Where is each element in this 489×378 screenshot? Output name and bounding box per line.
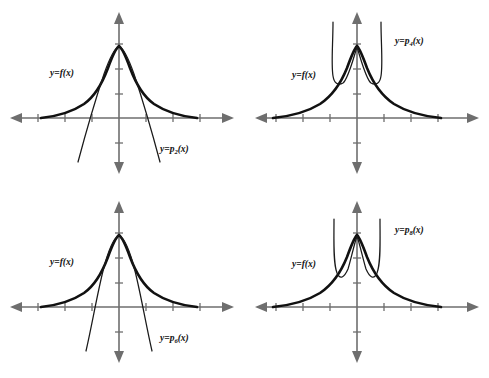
y-axis-down-arrow-icon xyxy=(114,162,124,174)
x-axis-right-arrow-icon xyxy=(222,113,234,123)
x-axis-right-arrow-icon xyxy=(467,113,479,123)
x-axis-left-arrow-icon xyxy=(255,302,267,312)
axes-group xyxy=(255,201,479,363)
axes-group xyxy=(255,12,479,174)
p-label-bottom-right: y=p8(x) xyxy=(394,225,424,236)
y-axis-up-arrow-icon xyxy=(352,201,362,213)
y-axis-up-arrow-icon xyxy=(114,12,124,24)
p-label-top-left: y=p2(x) xyxy=(159,144,189,155)
x-axis-left-arrow-icon xyxy=(10,113,22,123)
p-label-bottom-left: y=p6(x) xyxy=(159,333,189,344)
y-axis-down-arrow-icon xyxy=(352,162,362,174)
x-axis-right-arrow-icon xyxy=(467,302,479,312)
panel-top-left: y=f(x) y=p2(x) xyxy=(0,0,244,189)
x-axis-right-arrow-icon xyxy=(222,302,234,312)
panel-bottom-right: y=f(x) y=p8(x) xyxy=(245,189,489,378)
taylor-polynomial-figure: y=f(x) y=p2(x) xyxy=(0,0,489,378)
axes-group xyxy=(10,201,234,363)
f-label-top-left: y=f(x) xyxy=(49,68,74,79)
panel-bottom-left: y=f(x) y=p6(x) xyxy=(0,189,244,378)
p-label-top-right: y=p4(x) xyxy=(394,36,424,47)
x-axis-left-arrow-icon xyxy=(255,113,267,123)
y-axis-up-arrow-icon xyxy=(352,12,362,24)
y-axis-down-arrow-icon xyxy=(114,351,124,363)
f-label-top-right: y=f(x) xyxy=(291,70,316,81)
y-axis-up-arrow-icon xyxy=(114,201,124,213)
axes-group xyxy=(10,12,234,174)
y-axis-down-arrow-icon xyxy=(352,351,362,363)
panel-top-right: y=f(x) y=p4(x) xyxy=(245,0,489,189)
f-label-bottom-right: y=f(x) xyxy=(291,259,316,270)
x-axis-left-arrow-icon xyxy=(10,302,22,312)
f-label-bottom-left: y=f(x) xyxy=(49,257,74,268)
